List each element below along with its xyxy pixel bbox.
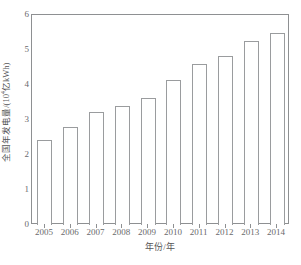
- x-axis-title: 年份/年: [31, 240, 289, 253]
- bar: [218, 56, 233, 225]
- x-axis-tick-mark: [96, 224, 97, 228]
- bar: [37, 140, 52, 225]
- bar: [166, 80, 181, 225]
- bar: [270, 33, 285, 225]
- x-axis-tick-mark: [44, 224, 45, 228]
- x-axis-tick-mark: [173, 224, 174, 228]
- bar-chart-figure: 全国年发电量/(104亿kWh) 0123456 200520062007200…: [0, 0, 301, 265]
- x-axis-tick-mark: [70, 224, 71, 228]
- x-axis-tick-mark: [250, 224, 251, 228]
- y-axis-tick-label: 6: [0, 8, 29, 20]
- bar: [63, 127, 78, 225]
- y-axis-tick-label: 3: [0, 113, 29, 125]
- x-axis-tick-label: 2014: [259, 227, 293, 238]
- bar: [244, 41, 259, 225]
- y-axis-tick-label: 0: [0, 218, 29, 230]
- x-axis-tick-mark: [121, 224, 122, 228]
- bar: [115, 106, 130, 225]
- bar: [141, 98, 156, 225]
- y-axis-tick-label: 2: [0, 148, 29, 160]
- bar: [89, 112, 104, 225]
- y-axis-tick-label: 4: [0, 78, 29, 90]
- x-axis-tick-mark: [225, 224, 226, 228]
- x-axis-tick-mark: [276, 224, 277, 228]
- bar: [192, 64, 207, 225]
- y-axis-tick-label: 5: [0, 43, 29, 55]
- y-axis-tick-label: 1: [0, 183, 29, 195]
- x-axis-tick-mark: [199, 224, 200, 228]
- y-axis-title-exponent: 4: [1, 91, 7, 94]
- x-axis-tick-mark: [147, 224, 148, 228]
- plot-area: [31, 14, 289, 224]
